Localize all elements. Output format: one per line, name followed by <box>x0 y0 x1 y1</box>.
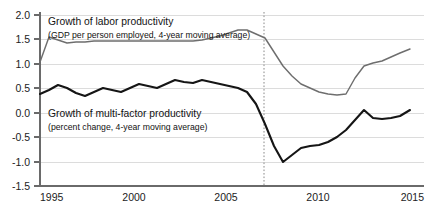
y-label-neg-0-5: -0.5 <box>12 131 30 143</box>
y-label-1-5: 1.5 <box>15 33 30 45</box>
labor-productivity-annotation-subtitle: (GDP per person employed, 4-year moving … <box>48 30 250 40</box>
y-label-neg-1-5: -1.5 <box>12 180 30 192</box>
multifactor-productivity-annotation-subtitle: (percent change, 4-year moving average) <box>48 122 207 132</box>
x-label-1995: 1995 <box>40 191 64 203</box>
multifactor-productivity-annotation-title: Growth of multi-factor productivity <box>48 108 202 119</box>
x-label-2010: 2010 <box>306 191 330 203</box>
labor-productivity-annotation-title: Growth of labor productivity <box>48 16 174 27</box>
multifactor-productivity-annotation: Growth of multi-factor productivity (per… <box>48 108 207 132</box>
chart-canvas: 2.0 1.5 1.0 0.5 0.0 -0.5 -1.0 -1.5 1995 … <box>0 0 428 219</box>
y-label-2-0: 2.0 <box>15 9 30 21</box>
x-label-2000: 2000 <box>122 191 146 203</box>
y-axis-group: 2.0 1.5 1.0 0.5 0.0 -0.5 -1.0 -1.5 <box>12 9 40 192</box>
y-label-0-0: 0.0 <box>15 107 30 119</box>
x-label-2015: 2015 <box>401 191 425 203</box>
productivity-growth-chart: 2.0 1.5 1.0 0.5 0.0 -0.5 -1.0 -1.5 1995 … <box>0 0 428 219</box>
x-label-2005: 2005 <box>214 191 238 203</box>
y-label-1-0: 1.0 <box>15 58 30 70</box>
multifactor-productivity-line <box>40 80 410 162</box>
labor-productivity-annotation: Growth of labor productivity (GDP per pe… <box>48 16 250 40</box>
y-label-neg-1-0: -1.0 <box>12 156 30 168</box>
y-label-0-5: 0.5 <box>15 82 30 94</box>
x-axis-group: 1995 2000 2005 2010 2015 <box>40 186 424 203</box>
